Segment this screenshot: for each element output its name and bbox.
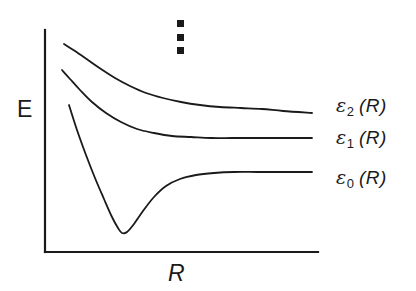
ellipsis-dot xyxy=(177,20,184,27)
epsilon-symbol: ε xyxy=(336,166,347,188)
epsilon-subscript: 0 xyxy=(347,176,354,191)
epsilon-symbol: ε xyxy=(336,94,347,116)
x-axis-label: R xyxy=(168,262,185,285)
curve-label-epsilon-2: ε2(R) xyxy=(336,96,387,118)
ellipsis-dot xyxy=(177,34,184,41)
curve-epsilon-2 xyxy=(64,44,312,113)
vertical-ellipsis-icon xyxy=(176,20,185,54)
curve-epsilon-1 xyxy=(62,70,312,138)
epsilon-argument: (R) xyxy=(359,127,387,148)
ellipsis-dot xyxy=(177,47,184,54)
y-axis-label: E xyxy=(17,98,32,121)
curve-epsilon-0 xyxy=(69,105,312,233)
epsilon-subscript: 1 xyxy=(347,136,354,151)
epsilon-argument: (R) xyxy=(359,167,387,188)
potential-energy-curves-figure: E R ε2(R) ε1(R) ε0(R) xyxy=(0,0,416,291)
epsilon-argument: (R) xyxy=(359,95,387,116)
epsilon-symbol: ε xyxy=(336,126,347,148)
curve-label-epsilon-1: ε1(R) xyxy=(336,128,387,150)
epsilon-subscript: 2 xyxy=(347,104,354,119)
curve-label-epsilon-0: ε0(R) xyxy=(336,168,387,190)
